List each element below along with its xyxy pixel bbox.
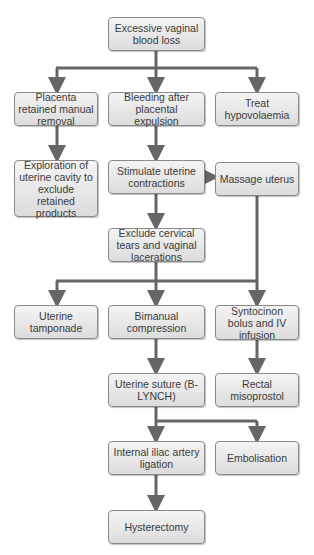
node-excessive-blood-loss: Excessive vaginal blood loss [108, 17, 205, 51]
node-syntocinon: Syntocinon bolus and IV infusion [215, 305, 299, 340]
node-rectal-misoprostol: Rectal misoprostol [215, 373, 299, 407]
node-exploration-uterine-cavity: Exploration of uterine cavity to exclude… [14, 160, 98, 217]
node-bimanual-compression: Bimanual compression [108, 305, 205, 339]
node-hysterectomy: Hysterectomy [108, 510, 205, 544]
node-bleeding-after-expulsion: Bleeding after placental expulsion [108, 92, 205, 126]
node-massage-uterus: Massage uterus [215, 162, 299, 196]
node-internal-iliac-ligation: Internal iliac artery ligation [108, 441, 205, 475]
node-placenta-retained: Placenta retained manual removal [14, 92, 98, 126]
node-treat-hypovolaemia: Treat hypovolaemia [215, 92, 299, 126]
node-embolisation: Embolisation [215, 441, 299, 475]
node-uterine-tamponade: Uterine tamponade [14, 305, 98, 339]
node-stimulate-contractions: Stimulate uterine contractions [108, 160, 205, 194]
node-exclude-cervical-tears: Exclude cervical tears and vaginal lacer… [108, 228, 205, 262]
node-uterine-suture: Uterine suture (B-LYNCH) [108, 373, 205, 407]
